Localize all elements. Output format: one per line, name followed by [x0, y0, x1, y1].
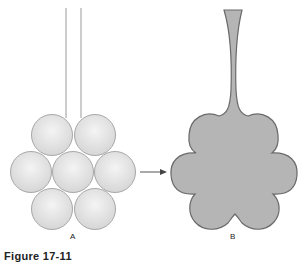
panel-b-blob: [171, 10, 297, 229]
panel-label-a: A: [70, 232, 75, 241]
sphere: [32, 115, 73, 156]
arrow-icon: [140, 169, 167, 175]
sphere: [75, 189, 116, 230]
sphere: [32, 189, 73, 230]
panel-a-spheres: [11, 115, 136, 230]
panel-a-wires: [66, 8, 81, 118]
sphere: [95, 152, 136, 193]
sphere: [11, 152, 52, 193]
sphere: [75, 115, 116, 156]
figure-caption: Figure 17-11: [4, 250, 72, 262]
sphere: [53, 152, 94, 193]
panel-label-b: B: [230, 232, 235, 241]
